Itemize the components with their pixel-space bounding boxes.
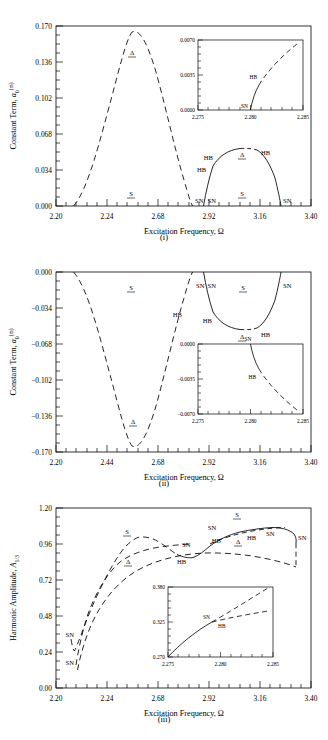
svg-text:Harmonic Amplitude, A1/3: Harmonic Amplitude, A1/3: [9, 555, 20, 641]
svg-text:2.275: 2.275: [162, 661, 174, 667]
svg-text:0.72: 0.72: [39, 576, 52, 585]
svg-text:2.280: 2.280: [244, 418, 256, 424]
svg-text:2.68: 2.68: [152, 694, 165, 703]
svg-text:Constant Term, a0(m): Constant Term, a0(m): [8, 328, 20, 395]
panel-i-x-ticks: [56, 199, 311, 206]
panel-i-ylabel: Constant Term, a0(m): [8, 82, 20, 149]
panel-iii-plot: S S Δ Δ SN SN SN SN SN SN HB HB HB 0.00: [0, 492, 328, 738]
svg-text:0.170: 0.170: [35, 22, 52, 31]
label-s-2: S: [240, 190, 244, 197]
panel-i-x-tick-labels: 2.20 2.24 2.68 2.92 3.16 3.40: [50, 212, 318, 221]
svg-text:0.325: 0.325: [153, 619, 165, 625]
label-s-1: S: [129, 190, 133, 197]
svg-text:3.16: 3.16: [254, 458, 267, 467]
panel-iii-inset: SN HB 0.270 0.325 0.380 2.275 2.280 2.28…: [153, 584, 280, 667]
label-sn-1: SN: [196, 282, 205, 289]
label-sn-3: SN: [182, 541, 191, 548]
svg-text:3.16: 3.16: [254, 694, 267, 703]
panel-i-inset: HB SN 0.0000 0.0035 0.0070 2.275 2.280 2…: [180, 37, 309, 120]
label-hb-1: HB: [197, 166, 207, 173]
svg-text:0.270: 0.270: [153, 654, 165, 660]
label-sn-2: SN: [208, 282, 217, 289]
panel-iii-x-tick-labels: 2.20 2.24 2.68 2.92 3.16 3.40: [50, 694, 318, 703]
inset-label-sn: SN: [241, 103, 248, 109]
label-delta-1: Δ: [126, 558, 130, 565]
panel-ii-y-tick-labels: −0.170 −0.136 −0.102 −0.068 −0.034 0.000: [31, 268, 52, 457]
label-hb-1: HB: [173, 311, 183, 318]
inset-label-sn: SN: [245, 336, 252, 342]
panel-ii-y-ticks: [56, 272, 63, 452]
svg-text:3.16: 3.16: [254, 212, 267, 221]
svg-text:3.40: 3.40: [305, 694, 318, 703]
svg-text:0.000: 0.000: [35, 268, 52, 277]
panel-iii-caption: (iii): [0, 714, 328, 724]
svg-text:0.00: 0.00: [39, 684, 52, 693]
panel-iii-y-tick-labels: 0.00 0.24 0.48 0.72 0.96 1.20: [39, 504, 52, 693]
svg-text:0.96: 0.96: [39, 540, 52, 549]
svg-text:0.136: 0.136: [35, 58, 52, 67]
label-sn-3: SN: [283, 282, 292, 289]
svg-text:0.000: 0.000: [35, 202, 52, 211]
panel-ii-x-ticks: [56, 445, 311, 452]
svg-text:−0.170: −0.170: [31, 448, 52, 457]
label-delta-1: Δ: [130, 49, 134, 56]
panel-ii-caption: (ii): [0, 478, 328, 488]
svg-text:2.280: 2.280: [244, 114, 256, 120]
label-s-2: S: [241, 284, 245, 291]
figure-container: Δ S HB SN SN HB Δ HB S SN 0.000 0.034 0.…: [0, 0, 328, 740]
panel-i-caption: (i): [0, 232, 328, 242]
svg-text:2.285: 2.285: [297, 418, 309, 424]
svg-text:2.275: 2.275: [192, 114, 204, 120]
label-sn-6: SN: [298, 534, 307, 541]
svg-text:2.92: 2.92: [203, 458, 216, 467]
label-delta-2: Δ: [131, 418, 135, 425]
label-sn-1: SN: [195, 197, 204, 204]
panel-ii-plot: S SN SN S SN HB HB Δ HB Δ −0.170 −0.136 …: [0, 246, 328, 492]
label-hb-3: HB: [261, 331, 271, 338]
svg-text:0.0070: 0.0070: [180, 37, 195, 43]
panel-ii-inset: SN HB −0.0070 −0.0035 0.0000 2.275 2.280…: [177, 336, 309, 424]
label-sn-5: SN: [266, 530, 275, 537]
panel-i: Δ S HB SN SN HB Δ HB S SN 0.000 0.034 0.…: [0, 0, 328, 246]
label-s-1: S: [129, 284, 133, 291]
svg-text:−0.068: −0.068: [31, 340, 52, 349]
svg-text:−0.102: −0.102: [31, 376, 52, 385]
label-sn-2: SN: [208, 197, 217, 204]
label-delta-1: Δ: [240, 333, 244, 340]
inset-label-hb: HB: [249, 374, 257, 380]
svg-text:2.68: 2.68: [152, 458, 165, 467]
svg-text:2.20: 2.20: [50, 212, 63, 221]
label-hb-3: HB: [247, 534, 257, 541]
svg-text:1.20: 1.20: [39, 504, 52, 513]
svg-text:2.44: 2.44: [101, 458, 114, 467]
label-hb-2: HB: [203, 317, 213, 324]
svg-text:3.40: 3.40: [305, 212, 318, 221]
label-hb-3: HB: [261, 149, 271, 156]
label-s-2: S: [235, 511, 239, 518]
panel-iii-ylabel: Harmonic Amplitude, A1/3: [9, 555, 20, 641]
svg-text:2.92: 2.92: [203, 694, 216, 703]
svg-text:−0.0035: −0.0035: [177, 376, 195, 382]
svg-text:2.68: 2.68: [152, 212, 165, 221]
label-delta-2: Δ: [236, 538, 240, 545]
panel-iii: S S Δ Δ SN SN SN SN SN SN HB HB HB 0.00: [0, 492, 328, 738]
panel-i-plot: Δ S HB SN SN HB Δ HB S SN 0.000 0.034 0.…: [0, 0, 328, 246]
svg-text:0.24: 0.24: [39, 648, 52, 657]
svg-text:0.380: 0.380: [153, 584, 165, 590]
svg-text:3.40: 3.40: [305, 458, 318, 467]
label-sn-2: SN: [66, 659, 75, 666]
svg-text:2.24: 2.24: [101, 212, 114, 221]
inset-label-sn: SN: [203, 614, 210, 620]
svg-text:−0.034: −0.034: [31, 304, 52, 313]
svg-text:2.285: 2.285: [297, 114, 309, 120]
label-sn-3: SN: [283, 197, 292, 204]
panel-iii-x-ticks: [56, 681, 311, 688]
label-delta-2: Δ: [240, 151, 244, 158]
inset-label-hb: HB: [218, 623, 226, 629]
inset-label-hb: HB: [250, 74, 258, 80]
svg-text:2.24: 2.24: [101, 694, 114, 703]
svg-text:2.275: 2.275: [192, 418, 204, 424]
svg-text:0.0000: 0.0000: [180, 107, 195, 113]
panel-ii: S SN SN S SN HB HB Δ HB Δ −0.170 −0.136 …: [0, 246, 328, 492]
label-s-1: S: [125, 528, 129, 535]
